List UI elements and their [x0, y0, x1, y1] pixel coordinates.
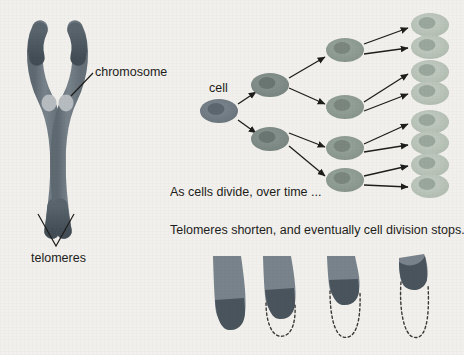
- cell-gen2-1: [326, 38, 364, 62]
- cell-gen2-4: [326, 168, 364, 192]
- telomere-tip-bottom-right: [60, 206, 64, 231]
- caption-line-1: As cells divide, over time ...: [170, 186, 321, 199]
- cell-gen2-3: [326, 136, 364, 160]
- cell-gen3-6: [411, 131, 449, 155]
- telomere-segment: [215, 298, 245, 330]
- cell-gen3-7: [411, 153, 449, 177]
- centromere-right: [59, 95, 74, 112]
- chromosome-label: chromosome: [95, 66, 167, 79]
- diagram-graphics: [0, 0, 464, 355]
- cell-gen3-1: [411, 13, 449, 37]
- telomere-tip-top-right: [75, 30, 79, 58]
- cell-gen1-2: [251, 127, 289, 151]
- diagram-canvas: chromosome telomeres cell As cells divid…: [0, 0, 464, 355]
- cell-gen1-1: [251, 73, 289, 97]
- cell-gen3-3: [411, 60, 449, 84]
- shortening-step-1: [213, 256, 246, 330]
- cell-label: cell: [209, 82, 228, 95]
- cell-gen3-4: [411, 81, 449, 105]
- nucleus: [208, 103, 225, 115]
- chromatid-right: [58, 28, 80, 231]
- shortening-step-3: [327, 256, 360, 337]
- cell-gen0-1: [200, 99, 238, 123]
- caption-line-2: Telomeres shorten, and eventually cell d…: [170, 224, 464, 237]
- cell-division-tree: [200, 13, 449, 198]
- lost-telomere-outline: [401, 282, 429, 338]
- cell-gen3-5: [411, 110, 449, 134]
- telomere-segment: [329, 279, 359, 305]
- telomere-shortening-sequence: [213, 254, 428, 338]
- telomere-segment: [265, 288, 295, 319]
- telomeres-label: telomeres: [31, 252, 86, 265]
- cell-gen2-2: [326, 95, 364, 119]
- centromere-left: [42, 95, 57, 112]
- telomere-tip-top-left: [36, 30, 40, 58]
- duplicated-chromosome: [35, 28, 93, 246]
- shortening-step-4: [399, 254, 428, 338]
- shortening-step-2: [263, 256, 296, 336]
- cell-gen3-2: [411, 35, 449, 59]
- division-arrows: [238, 28, 408, 187]
- cell-gen3-8: [411, 174, 449, 198]
